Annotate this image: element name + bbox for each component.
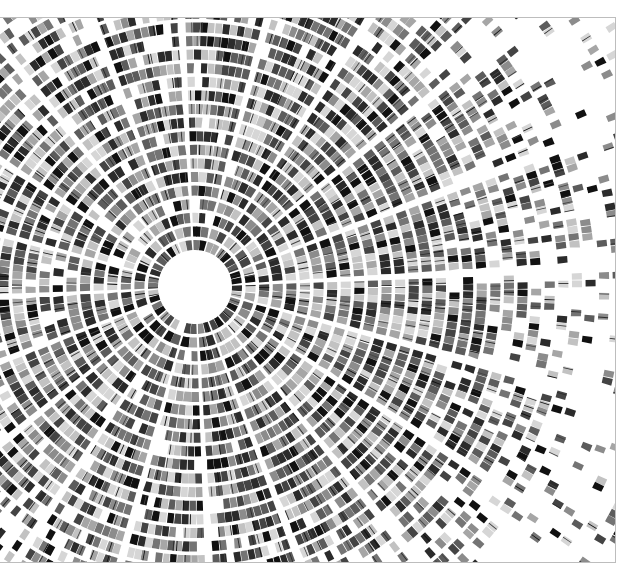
radial-mosaic-figure bbox=[0, 17, 616, 563]
figure-caption bbox=[320, 0, 480, 4]
radial-mosaic-canvas bbox=[0, 18, 616, 563]
